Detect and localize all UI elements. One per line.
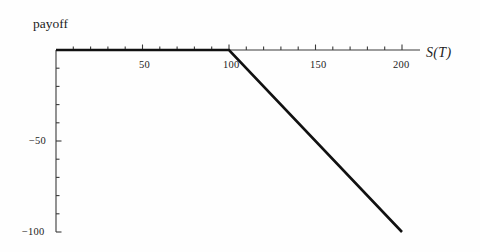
x-axis-title-close-paren: ) xyxy=(446,45,451,60)
payoff-chart-figure: payoff S(T) 50 100 150 200 −50 −100 xyxy=(0,0,480,252)
x-tick-label-50: 50 xyxy=(139,60,150,71)
x-tick-label-150: 150 xyxy=(310,60,326,71)
y-axis-ticks xyxy=(56,68,62,232)
x-tick-label-200: 200 xyxy=(393,60,409,71)
y-tick-label-minus50: −50 xyxy=(29,136,46,147)
plot-canvas xyxy=(0,0,480,252)
x-tick-label-100: 100 xyxy=(223,60,239,71)
x-axis-title: S(T) xyxy=(426,46,451,60)
payoff-line-series xyxy=(56,50,402,232)
y-tick-label-minus100: −100 xyxy=(22,227,44,238)
y-axis-title: payoff xyxy=(33,17,68,31)
